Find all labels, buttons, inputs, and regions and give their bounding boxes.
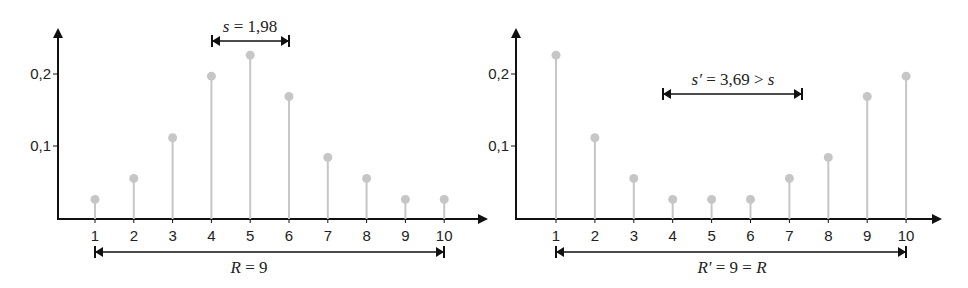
- spread-var: s′: [692, 70, 703, 89]
- x-tick-label: 5: [707, 227, 715, 244]
- left-chart: 0,2 0,1 12345678910 s = 1,98 R = 9: [30, 17, 486, 277]
- range-var: R: [230, 258, 242, 277]
- y-tick-label: 0,2: [30, 65, 51, 82]
- stem-dot: [246, 51, 255, 60]
- x-tick-label: 1: [552, 227, 560, 244]
- x-tick-label: 6: [746, 227, 754, 244]
- y-ticks: 0,2 0,1: [488, 65, 516, 154]
- stem-dot: [824, 153, 833, 162]
- stem-dot: [707, 195, 716, 204]
- stem-dot: [168, 133, 177, 142]
- y-tick-label: 0,2: [488, 65, 509, 82]
- spread-annotation: s′ = 3,69 > s: [663, 70, 802, 100]
- svg-text:R = 9: R = 9: [230, 258, 268, 277]
- x-tick-label: 7: [324, 227, 332, 244]
- x-tick-label: 9: [863, 227, 871, 244]
- range-var: R′: [696, 258, 711, 277]
- stem-dot: [401, 195, 410, 204]
- stem-dot: [552, 51, 561, 60]
- range-value: = 9: [241, 258, 268, 277]
- stem-dot: [285, 92, 294, 101]
- x-tick-label: 3: [168, 227, 176, 244]
- stem-dot: [785, 174, 794, 183]
- x-tick-label: 8: [362, 227, 370, 244]
- y-ticks: 0,2 0,1: [30, 65, 58, 154]
- stem-dot: [590, 133, 599, 142]
- x-tick-label: 6: [285, 227, 293, 244]
- spread-annotation: s = 1,98: [212, 17, 289, 47]
- stem-dot: [91, 195, 100, 204]
- x-tick-label: 3: [630, 227, 638, 244]
- stem-charts-figure: 0,2 0,1 12345678910 s = 1,98 R = 9: [0, 0, 968, 288]
- x-tick-label: 10: [436, 227, 453, 244]
- svg-text:s = 1,98: s = 1,98: [223, 17, 277, 36]
- x-tick-label: 5: [246, 227, 254, 244]
- stems: [91, 51, 449, 223]
- stem-dot: [207, 72, 216, 81]
- stem-dot: [902, 72, 911, 81]
- spread-value: = 1,98: [229, 17, 277, 36]
- x-tick-label: 1: [91, 227, 99, 244]
- x-tick-label: 4: [669, 227, 677, 244]
- stem-dot: [129, 174, 138, 183]
- y-tick-label: 0,1: [30, 137, 51, 154]
- spread-compare-var: s: [768, 70, 775, 89]
- stem-dot: [323, 153, 332, 162]
- y-tick-label: 0,1: [488, 137, 509, 154]
- stem-dot: [629, 174, 638, 183]
- range-value: = 9 =: [712, 258, 757, 277]
- x-tick-labels: 12345678910: [552, 227, 915, 244]
- svg-text:s′ = 3,69 > s: s′ = 3,69 > s: [692, 70, 775, 89]
- stem-dot: [362, 174, 371, 183]
- stem-dot: [863, 92, 872, 101]
- range-annotation: R = 9: [95, 246, 444, 277]
- right-chart: 0,2 0,1 12345678910 s′ = 3,69 > s R′ = 9…: [488, 30, 940, 277]
- stem-dot: [440, 195, 449, 204]
- range-compare-var: R: [755, 258, 767, 277]
- x-tick-label: 10: [898, 227, 915, 244]
- range-annotation: R′ = 9 = R: [556, 246, 906, 277]
- x-tick-label: 2: [591, 227, 599, 244]
- x-tick-label: 4: [207, 227, 215, 244]
- svg-text:R′ = 9 = R: R′ = 9 = R: [696, 258, 767, 277]
- x-tick-label: 2: [130, 227, 138, 244]
- x-tick-labels: 12345678910: [91, 227, 453, 244]
- spread-value: = 3,69 >: [702, 70, 768, 89]
- x-tick-label: 8: [824, 227, 832, 244]
- x-tick-label: 9: [401, 227, 409, 244]
- stem-dot: [746, 195, 755, 204]
- stem-dot: [668, 195, 677, 204]
- x-tick-label: 7: [785, 227, 793, 244]
